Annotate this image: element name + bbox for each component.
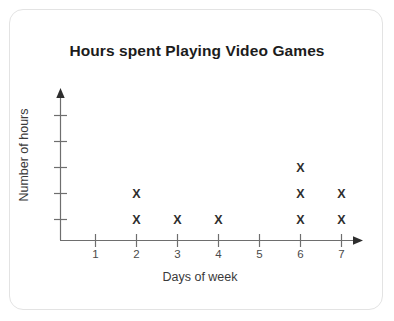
x-axis-tick-label-5: 5 (250, 248, 270, 260)
data-mark-day-3-unit-1: X (171, 214, 185, 227)
y-axis (54, 93, 67, 240)
chart-title: Hours spent Playing Video Games (0, 42, 394, 60)
data-mark-day-2-unit-2: X (130, 188, 144, 201)
x-axis-tick-label-6: 6 (291, 248, 311, 260)
y-axis-arrowhead (56, 88, 64, 98)
data-mark-day-7-unit-1: X (335, 214, 349, 227)
x-axis-tick-label-2: 2 (127, 248, 147, 260)
data-mark-day-6-unit-3: X (294, 162, 308, 175)
x-axis-arrowhead (353, 236, 363, 244)
x-axis-tick-label-7: 7 (332, 248, 352, 260)
x-axis (60, 234, 358, 247)
data-mark-day-6-unit-2: X (294, 188, 308, 201)
x-axis-tick-label-1: 1 (86, 248, 106, 260)
data-mark-day-2-unit-1: X (130, 214, 144, 227)
x-axis-label: Days of week (120, 270, 280, 284)
x-axis-tick-label-4: 4 (209, 248, 229, 260)
y-axis-label: Number of hours (17, 95, 31, 215)
data-mark-day-4-unit-1: X (212, 214, 226, 227)
data-mark-day-7-unit-2: X (335, 188, 349, 201)
data-mark-day-6-unit-1: X (294, 214, 308, 227)
x-axis-tick-label-3: 3 (168, 248, 188, 260)
